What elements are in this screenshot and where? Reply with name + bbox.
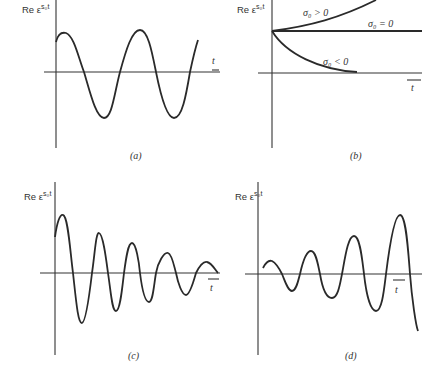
panel-c-caption: (c) [128,350,140,362]
panel-c-t-label: t [210,282,213,293]
panel-c-curve [55,215,218,323]
panel-c-ylabel: Re εs₀t [24,190,51,202]
panel-b-label-sigma-pos: σ₀ > 0 [303,7,328,18]
panel-d: Re εs₀t t (d) [235,182,422,362]
panel-a-ylabel: Re εs₀t [22,3,49,15]
figure-canvas: Re εs₀t t (a) Re εs₀t t σ₀ > 0 σ₀ = 0 σ₀… [0,0,440,367]
panel-b-label-sigma-zero: σ₀ = 0 [368,18,393,29]
panel-b: Re εs₀t t σ₀ > 0 σ₀ = 0 σ₀ < 0 (b) [237,0,422,162]
panel-b-t-label: t [411,82,414,93]
panel-a-t-label: t [212,55,215,66]
panel-d-t-label: t [395,284,398,295]
panel-a: Re εs₀t t (a) [22,0,220,162]
panel-d-caption: (d) [345,350,357,362]
panel-b-caption: (b) [350,150,362,162]
panel-c: Re εs₀t t (c) [24,182,220,362]
panel-b-label-sigma-neg: σ₀ < 0 [323,56,348,67]
panel-b-ylabel: Re εs₀t [237,3,264,15]
panel-a-caption: (a) [130,150,142,162]
panel-a-curve [56,30,198,118]
panel-d-curve [263,215,418,331]
